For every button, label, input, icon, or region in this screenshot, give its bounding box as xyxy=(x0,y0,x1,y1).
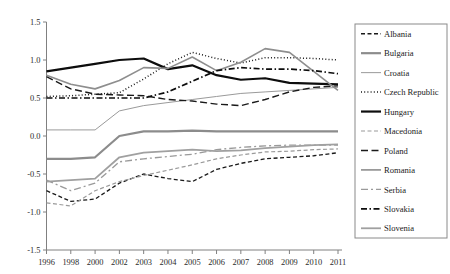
x-tick-label: 2000 xyxy=(87,258,104,267)
legend-item-hungary[interactable]: Hungary xyxy=(361,107,415,117)
legend-item-slovenia[interactable]: Slovenia xyxy=(361,223,414,233)
line-chart: 1.51.00.50.0-0.5-1.0-1.5 199619982000200… xyxy=(0,0,450,274)
legend-label: Croatia xyxy=(384,68,409,78)
legend-label: Bulgaria xyxy=(384,48,414,58)
legend-label: Macedonia xyxy=(384,126,422,136)
legend-item-macedonia[interactable]: Macedonia xyxy=(361,126,422,136)
y-tick-label: 0.0 xyxy=(30,132,40,141)
legend-item-croatia[interactable]: Croatia xyxy=(361,68,409,78)
x-tick-label: 2002 xyxy=(111,258,128,267)
series-line-serbia xyxy=(47,145,339,191)
x-tick-label: 2005 xyxy=(184,258,201,267)
legend-item-serbia[interactable]: Serbia xyxy=(361,185,406,195)
series-line-slovenia xyxy=(47,144,339,181)
y-tick-label: -1.0 xyxy=(27,208,40,217)
legend-label: Romania xyxy=(384,165,415,175)
y-tick-label: 1.5 xyxy=(30,18,40,27)
x-axis-tick-labels: 1996199820002002200320042005200620072008… xyxy=(38,258,346,267)
series-layer xyxy=(47,49,339,206)
x-tick-label: 2003 xyxy=(135,258,152,267)
x-tick-label: 1998 xyxy=(62,258,79,267)
legend-item-poland[interactable]: Poland xyxy=(361,146,409,156)
legend[interactable]: AlbaniaBulgariaCroatiaCzech RepublicHung… xyxy=(355,24,447,238)
x-tick-label: 2007 xyxy=(232,258,249,267)
x-tick-label: 2004 xyxy=(160,258,178,267)
legend-label: Poland xyxy=(384,146,409,156)
legend-label: Slovenia xyxy=(384,223,414,233)
y-axis-tick-labels: 1.51.00.50.0-0.5-1.0-1.5 xyxy=(27,18,40,255)
legend-label: Czech Republic xyxy=(384,87,439,97)
x-tick-label: 2009 xyxy=(281,258,298,267)
legend-label: Slovakia xyxy=(384,204,414,214)
chart-root: 1.51.00.50.0-0.5-1.0-1.5 199619982000200… xyxy=(0,0,450,274)
x-tick-label: 2011 xyxy=(330,258,346,267)
y-tick-label: -1.5 xyxy=(27,246,40,255)
legend-label: Serbia xyxy=(384,185,406,195)
legend-label: Albania xyxy=(384,29,411,39)
x-tick-label: 1996 xyxy=(38,258,55,267)
legend-item-czech-republic[interactable]: Czech Republic xyxy=(361,87,439,97)
legend-item-slovakia[interactable]: Slovakia xyxy=(361,204,414,214)
y-tick-label: 1.0 xyxy=(30,56,40,65)
x-tick-label: 2008 xyxy=(257,258,274,267)
y-tick-label: -0.5 xyxy=(27,170,40,179)
series-line-hungary xyxy=(47,58,339,84)
series-line-poland xyxy=(47,77,339,106)
legend-label: Hungary xyxy=(384,107,415,117)
x-tick-label: 2010 xyxy=(305,258,322,267)
legend-item-bulgaria[interactable]: Bulgaria xyxy=(361,48,414,58)
legend-item-romania[interactable]: Romania xyxy=(361,165,415,175)
legend-item-albania[interactable]: Albania xyxy=(361,29,411,39)
y-tick-label: 0.5 xyxy=(30,94,40,103)
x-tick-label: 2006 xyxy=(208,258,225,267)
